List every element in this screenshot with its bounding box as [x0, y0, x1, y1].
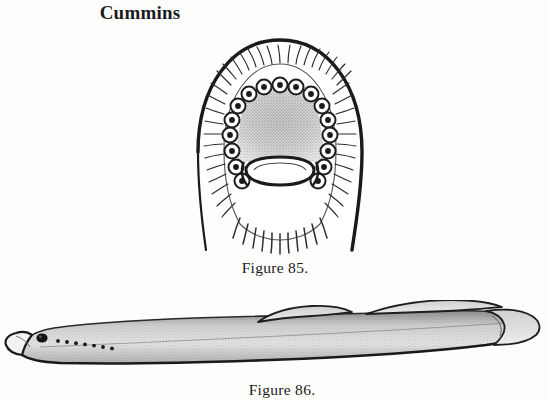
figure-85-caption: Figure 85. — [175, 259, 375, 277]
page-canvas: Cummins — [0, 0, 549, 401]
figure-85-illustration — [180, 30, 380, 258]
eye — [36, 333, 47, 342]
figure-86-illustration — [0, 300, 549, 380]
lamprey-body — [0, 300, 549, 380]
figure-86-caption: Figure 86. — [182, 381, 382, 399]
running-head: Cummins — [0, 2, 280, 24]
